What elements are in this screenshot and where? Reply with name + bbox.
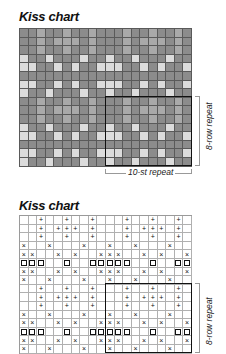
chart-cell-plus (123, 29, 132, 38)
chart-cell-blank (140, 345, 149, 354)
chart-cell-blank (63, 311, 72, 320)
chart-cell-plus: + (89, 216, 98, 225)
chart-cell-plus (37, 106, 46, 115)
chart-cell-cross: × (132, 242, 141, 251)
chart-cell-cross (20, 63, 29, 72)
chart-cell-plus: + (37, 302, 46, 311)
chart-cell-blank (54, 158, 63, 167)
chart-cell-plus (54, 38, 63, 47)
chart-cell-blank (72, 276, 81, 285)
chart-cell-plus (89, 98, 98, 107)
chart-cell-square (149, 141, 158, 150)
chart-cell-blank (149, 345, 158, 354)
chart-cell-square (123, 72, 132, 81)
chart-cell-square (106, 259, 115, 268)
chart-cell-cross: × (20, 319, 29, 328)
chart-cell-blank (123, 63, 132, 72)
chart-cell-cross (20, 132, 29, 141)
chart-cell-blank (106, 302, 115, 311)
chart-cell-plus (37, 29, 46, 38)
chart-cell-cross (132, 158, 141, 167)
chart-cell-blank (106, 285, 115, 294)
chart-cell-cross: × (46, 311, 55, 320)
chart-cell-blank (46, 72, 55, 81)
chart-cell-blank (80, 106, 89, 115)
chart-cell-blank (20, 46, 29, 55)
chart-cell-blank (72, 311, 81, 320)
chart-cell-blank (132, 149, 141, 158)
chart-cell-blank (166, 216, 175, 225)
chart-cell-plus (175, 46, 184, 55)
chart-cell-blank (132, 216, 141, 225)
chart-cell-plus: + (72, 293, 81, 302)
chart-cell-cross (20, 81, 29, 90)
chart-cell-cross: × (80, 242, 89, 251)
chart-cell-blank (46, 149, 55, 158)
chart-cell-square (106, 328, 115, 337)
chart-cell-plus (123, 115, 132, 124)
chart-cell-plus: + (140, 293, 149, 302)
chart-cell-blank (72, 328, 81, 337)
chart-cell-cross (158, 63, 167, 72)
chart-cell-cross: × (140, 268, 149, 277)
chart-cell-blank (46, 268, 55, 277)
chart-cell-blank (29, 216, 38, 225)
chart-cell-blank (123, 81, 132, 90)
chart-cell-blank (80, 293, 89, 302)
chart-cell-blank (115, 124, 124, 133)
chart-cell-plus (175, 38, 184, 47)
chart-cell-square (63, 328, 72, 337)
chart-cell-plus (63, 46, 72, 55)
chart-cell-square (115, 328, 124, 337)
chart-cell-blank (54, 242, 63, 251)
chart-cell-blank (140, 285, 149, 294)
chart-cell-cross: × (166, 242, 175, 251)
chart-cell-blank (29, 98, 38, 107)
chart-cell-blank (89, 132, 98, 141)
chart-cell-cross: × (20, 250, 29, 259)
chart-cell-plus: + (123, 225, 132, 234)
chart-cell-blank (54, 89, 63, 98)
chart-cell-blank (166, 38, 175, 47)
chart-cell-cross: × (183, 250, 192, 259)
chart-cell-square (97, 328, 106, 337)
chart-cell-cross: × (20, 268, 29, 277)
chart-cell-blank (97, 302, 106, 311)
chart-cell-blank (54, 124, 63, 133)
chart-cell-blank (29, 29, 38, 38)
chart-cell-blank (72, 89, 81, 98)
chart-cell-blank (140, 311, 149, 320)
chart-cell-blank (115, 216, 124, 225)
chart-cell-square (37, 328, 46, 337)
top-stitch-repeat-label: 10-st repeat (126, 167, 175, 177)
chart-cell-plus (149, 29, 158, 38)
chart-cell-cross: × (140, 250, 149, 259)
chart-cell-blank (46, 81, 55, 90)
chart-cell-plus: + (175, 233, 184, 242)
chart-cell-blank (175, 336, 184, 345)
chart-cell-cross (158, 149, 167, 158)
chart-cell-blank (149, 81, 158, 90)
chart-cell-blank (166, 46, 175, 55)
chart-cell-cross (54, 149, 63, 158)
chart-cell-blank (54, 141, 63, 150)
chart-cell-blank (175, 345, 184, 354)
chart-cell-blank (63, 63, 72, 72)
chart-cell-plus: + (89, 233, 98, 242)
chart-cell-blank (89, 336, 98, 345)
chart-cell-blank (72, 98, 81, 107)
chart-cell-blank (29, 106, 38, 115)
chart-cell-blank (115, 38, 124, 47)
chart-cell-blank (89, 242, 98, 251)
chart-cell-cross (80, 158, 89, 167)
chart-cell-plus: + (123, 285, 132, 294)
chart-cell-blank (132, 46, 141, 55)
chart-cell-plus: + (37, 216, 46, 225)
chart-cell-blank (123, 276, 132, 285)
chart-cell-blank (46, 285, 55, 294)
chart-cell-square (115, 259, 124, 268)
chart-cell-blank (37, 89, 46, 98)
chart-cell-blank (123, 336, 132, 345)
chart-cell-blank (166, 106, 175, 115)
chart-cell-cross: × (106, 336, 115, 345)
